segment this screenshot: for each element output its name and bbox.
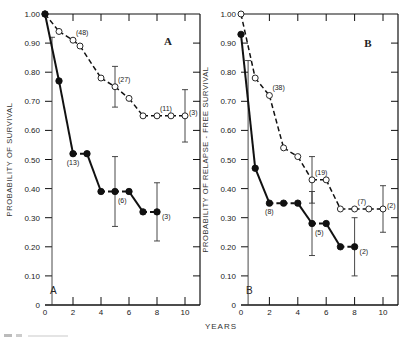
open-circle-point (140, 113, 146, 119)
y-tick-label: 0.40 (220, 185, 236, 194)
panel-corner-label: A (50, 285, 57, 296)
x-tick-label: 0 (43, 308, 48, 317)
count-annotation: (38) (272, 84, 284, 92)
series-segment (59, 81, 73, 154)
x-tick-label: 8 (155, 308, 160, 317)
x-tick-label: 10 (181, 308, 190, 317)
panel-b: 024681000.100.200.300.400.500.600.700.80… (201, 10, 398, 317)
count-annotation: (6) (118, 197, 127, 205)
series-filled: (13)(6)(3) (42, 11, 171, 305)
open-circle-point (380, 206, 386, 212)
open-circle-point (182, 113, 188, 119)
filled-circle-point (337, 244, 343, 250)
count-annotation: (27) (118, 76, 130, 84)
x-tick-label: 10 (379, 308, 388, 317)
y-tick-label: 0.10 (220, 272, 236, 281)
open-circle-point (309, 177, 315, 183)
open-circle-point (56, 28, 62, 34)
y-tick-label: 0 (232, 301, 237, 310)
x-axis-label: YEARS (205, 322, 237, 331)
series-segment (298, 157, 312, 180)
series-open: (48)(27)(11)(3) (42, 11, 198, 142)
open-circle-point (70, 37, 76, 43)
count-annotation: (3) (162, 213, 171, 221)
filled-circle-point (309, 220, 315, 226)
panel-title: B (364, 37, 372, 49)
filled-circle-point (140, 209, 146, 215)
y-tick-label: 0.20 (24, 243, 40, 252)
series-segment (326, 180, 340, 209)
series-segment (255, 168, 269, 203)
y-tick-label: 0.30 (220, 214, 236, 223)
filled-circle-point (280, 200, 286, 206)
x-tick-label: 4 (99, 308, 104, 317)
open-circle-point (238, 11, 244, 17)
caption-fragment (4, 334, 68, 337)
y-tick-label: 0 (36, 301, 41, 310)
x-tick-label: 0 (239, 308, 244, 317)
open-circle-point (352, 206, 358, 212)
count-annotation: (11) (160, 105, 172, 113)
y-tick-label: 0.20 (220, 243, 236, 252)
y-tick-label: 0.90 (220, 39, 236, 48)
filled-circle-point (98, 188, 104, 194)
x-tick-label: 6 (127, 308, 132, 317)
count-annotation: (8) (265, 208, 274, 216)
filled-circle-point (323, 220, 329, 226)
count-annotation: (48) (76, 29, 88, 37)
count-annotation: (2) (360, 248, 369, 256)
y-tick-label: 0.40 (24, 185, 40, 194)
x-tick-label: 2 (71, 308, 76, 317)
open-circle-point (77, 43, 83, 49)
open-circle-point (126, 95, 132, 101)
y-tick-label: 1.00 (24, 10, 40, 19)
open-circle-point (168, 113, 174, 119)
filled-circle-point (70, 150, 76, 156)
filled-circle-point (84, 150, 90, 156)
filled-circle-point (56, 78, 62, 84)
filled-circle-point (238, 31, 244, 37)
open-circle-point (266, 92, 272, 98)
y-tick-label: 0.10 (24, 272, 40, 281)
y-tick-label: 0.70 (24, 97, 40, 106)
filled-circle-point (252, 165, 258, 171)
series-segment (298, 203, 312, 223)
count-annotation: (5) (315, 229, 324, 237)
x-tick-label: 2 (267, 308, 272, 317)
series-segment (129, 192, 143, 212)
series-filled: (8)(5)(2) (238, 31, 368, 305)
count-annotation: (2) (387, 202, 396, 210)
panel-corner-label: B (246, 285, 253, 296)
open-circle-point (112, 84, 118, 90)
filled-circle-point (42, 11, 48, 17)
x-tick-label: 4 (296, 308, 301, 317)
y-tick-label: 1.00 (220, 10, 236, 19)
y-tick-label: 0.70 (220, 97, 236, 106)
open-circle-point (323, 177, 329, 183)
y-axis-label: PROBABILITY OF SURVIVAL (5, 103, 14, 217)
y-tick-label: 0.90 (24, 39, 40, 48)
series-segment (269, 95, 283, 147)
open-circle-point (98, 75, 104, 81)
count-annotation: (3) (189, 109, 198, 117)
y-tick-label: 0.80 (24, 68, 40, 77)
series-segment (326, 224, 340, 247)
x-tick-label: 8 (352, 308, 357, 317)
open-circle-point (337, 206, 343, 212)
count-annotation: (13) (67, 159, 79, 167)
y-tick-label: 0.50 (220, 156, 236, 165)
y-tick-label: 0.60 (220, 126, 236, 135)
panel-a: 024681000.100.200.300.400.500.600.700.80… (5, 10, 200, 317)
y-tick-label: 0.50 (24, 156, 40, 165)
panel-title: A (164, 35, 172, 47)
series-segment (80, 46, 101, 78)
series-open: (38)(19)(7)(2) (238, 11, 396, 232)
count-annotation: (7) (358, 198, 367, 206)
filled-circle-point (112, 188, 118, 194)
filled-circle-point (266, 200, 272, 206)
y-tick-label: 0.60 (24, 126, 40, 135)
filled-circle-point (126, 188, 132, 194)
open-circle-point (281, 145, 287, 151)
open-circle-point (154, 113, 160, 119)
filled-circle-point (295, 200, 301, 206)
